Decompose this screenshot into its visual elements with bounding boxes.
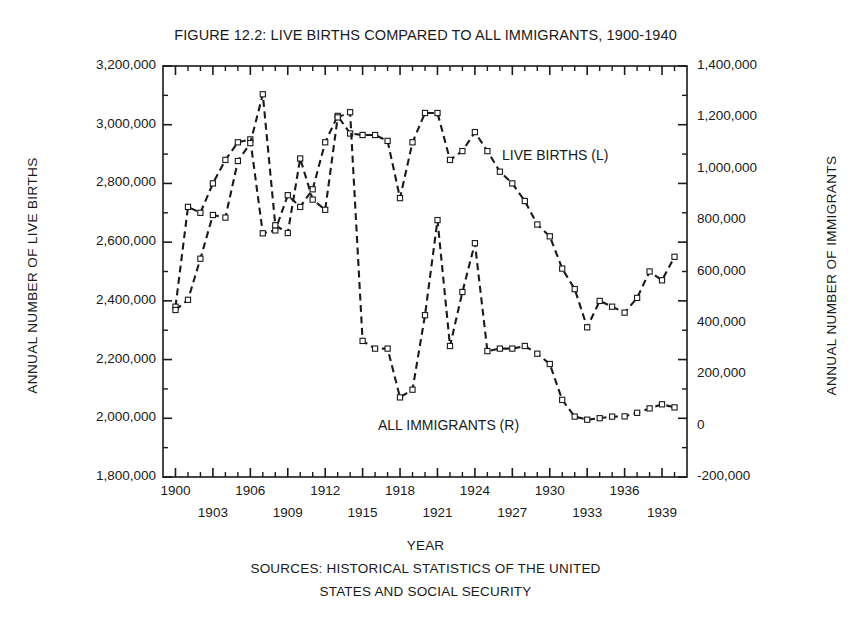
series-marker-2 bbox=[635, 410, 640, 415]
series-marker-2 bbox=[210, 212, 215, 217]
series-marker-2 bbox=[659, 402, 664, 407]
series-marker-2 bbox=[485, 349, 490, 354]
series-marker-2 bbox=[547, 361, 552, 366]
series-marker-1 bbox=[410, 140, 415, 145]
series-marker-2 bbox=[447, 343, 452, 348]
sources-line-2: STATES AND SOCIAL SECURITY bbox=[0, 584, 851, 599]
series-marker-2 bbox=[373, 346, 378, 351]
series-marker-1 bbox=[223, 157, 228, 162]
series-marker-1 bbox=[435, 110, 440, 115]
series-marker-1 bbox=[635, 295, 640, 300]
series-marker-1 bbox=[572, 287, 577, 292]
series-marker-2 bbox=[360, 338, 365, 343]
series-marker-1 bbox=[185, 204, 190, 209]
series-marker-1 bbox=[235, 140, 240, 145]
axes-frame bbox=[163, 66, 687, 477]
series-marker-1 bbox=[610, 304, 615, 309]
series-annotation-immigrants: ALL IMMIGRANTS (R) bbox=[378, 417, 519, 433]
series-marker-2 bbox=[397, 395, 402, 400]
series-marker-2 bbox=[647, 406, 652, 411]
series-marker-2 bbox=[535, 351, 540, 356]
series-marker-2 bbox=[410, 387, 415, 392]
series-marker-2 bbox=[173, 307, 178, 312]
series-marker-1 bbox=[273, 228, 278, 233]
series-marker-1 bbox=[397, 196, 402, 201]
series-marker-2 bbox=[198, 256, 203, 261]
series-marker-1 bbox=[510, 181, 515, 186]
series-marker-1 bbox=[422, 110, 427, 115]
series-marker-2 bbox=[472, 241, 477, 246]
series-marker-1 bbox=[198, 210, 203, 215]
x-axis-label: YEAR bbox=[0, 538, 851, 553]
data-series-layer bbox=[173, 92, 677, 423]
series-marker-2 bbox=[572, 414, 577, 419]
series-marker-1 bbox=[285, 193, 290, 198]
series-marker-2 bbox=[560, 397, 565, 402]
series-marker-1 bbox=[647, 269, 652, 274]
series-marker-1 bbox=[672, 254, 677, 259]
series-marker-1 bbox=[260, 231, 265, 236]
series-marker-2 bbox=[422, 313, 427, 318]
series-marker-2 bbox=[672, 405, 677, 410]
series-marker-1 bbox=[298, 204, 303, 209]
series-marker-1 bbox=[323, 140, 328, 145]
series-marker-2 bbox=[235, 158, 240, 163]
series-marker-2 bbox=[435, 218, 440, 223]
series-marker-1 bbox=[310, 187, 315, 192]
series-marker-2 bbox=[298, 156, 303, 161]
series-marker-2 bbox=[348, 110, 353, 115]
series-marker-2 bbox=[597, 416, 602, 421]
series-marker-2 bbox=[185, 297, 190, 302]
series-marker-1 bbox=[360, 132, 365, 137]
series-marker-1 bbox=[535, 222, 540, 227]
series-marker-1 bbox=[622, 310, 627, 315]
series-marker-2 bbox=[497, 346, 502, 351]
series-marker-2 bbox=[585, 417, 590, 422]
series-marker-1 bbox=[497, 169, 502, 174]
series-marker-2 bbox=[285, 230, 290, 235]
series-marker-1 bbox=[447, 157, 452, 162]
series-marker-1 bbox=[560, 266, 565, 271]
series-marker-2 bbox=[510, 346, 515, 351]
series-marker-1 bbox=[210, 181, 215, 186]
series-marker-2 bbox=[248, 141, 253, 146]
series-marker-2 bbox=[522, 343, 527, 348]
series-marker-2 bbox=[610, 414, 615, 419]
series-marker-2 bbox=[323, 207, 328, 212]
series-marker-2 bbox=[460, 289, 465, 294]
series-marker-1 bbox=[547, 234, 552, 239]
series-marker-1 bbox=[597, 298, 602, 303]
series-marker-1 bbox=[485, 149, 490, 154]
series-marker-1 bbox=[373, 132, 378, 137]
series-marker-2 bbox=[223, 215, 228, 220]
figure-container: FIGURE 12.2: LIVE BIRTHS COMPARED TO ALL… bbox=[0, 0, 851, 634]
series-marker-2 bbox=[622, 414, 627, 419]
series-marker-1 bbox=[585, 325, 590, 330]
sources-line-1: SOURCES: HISTORICAL STATISTICS OF THE UN… bbox=[0, 561, 851, 576]
series-annotation-live-births: LIVE BIRTHS (L) bbox=[502, 147, 608, 163]
series-marker-2 bbox=[260, 92, 265, 97]
series-marker-1 bbox=[460, 149, 465, 154]
series-marker-1 bbox=[522, 198, 527, 203]
series-marker-1 bbox=[659, 278, 664, 283]
series-marker-2 bbox=[310, 197, 315, 202]
series-marker-1 bbox=[472, 130, 477, 135]
plot-frame bbox=[163, 66, 687, 477]
series-marker-1 bbox=[385, 138, 390, 143]
series-marker-2 bbox=[335, 115, 340, 120]
series-marker-2 bbox=[385, 346, 390, 351]
series-marker-2 bbox=[273, 223, 278, 228]
